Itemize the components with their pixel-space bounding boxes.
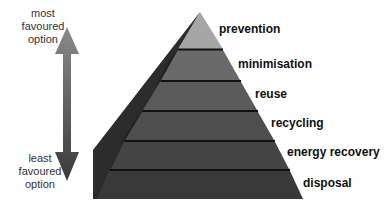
level-energy-recovery: [111, 142, 289, 169]
level-reuse: [143, 82, 257, 110]
double-arrow-icon: [55, 27, 79, 181]
label-disposal: disposal: [303, 176, 352, 190]
level-prevention: [178, 12, 223, 49]
label-minimisation: minimisation: [238, 57, 312, 71]
label-reuse: reuse: [255, 87, 287, 101]
waste-hierarchy-pyramid: [0, 0, 387, 205]
level-disposal: [97, 171, 303, 199]
label-prevention: prevention: [219, 22, 280, 36]
label-recycling: recycling: [271, 116, 324, 130]
level-recycling: [125, 112, 274, 140]
label-energy-recovery: energy recovery: [287, 145, 380, 159]
